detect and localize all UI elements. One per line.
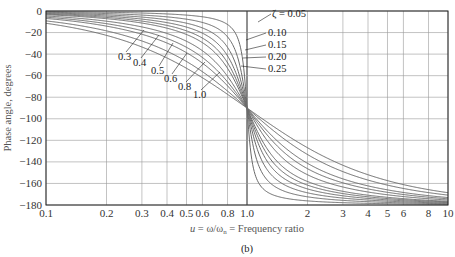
zeta-leader [243, 57, 266, 58]
x-tick-label: 2 [305, 207, 311, 219]
zeta-leader [245, 45, 266, 50]
zeta-label-0.5: 0.5 [151, 65, 164, 76]
zeta-leader [159, 43, 173, 66]
phase-angle-chart: 0−20−40−60−80−100−120−140−160−180 0.10.2… [0, 0, 455, 257]
y-tick-label: −140 [19, 155, 42, 167]
zeta-label-0.10: 0.10 [268, 27, 286, 38]
zeta-label-0.6: 0.6 [164, 73, 177, 84]
x-tick-label: 10 [443, 207, 455, 219]
y-axis-label: Phase angle, degrees [2, 64, 13, 151]
y-tick-label: −20 [25, 26, 43, 38]
y-tick-label: −100 [19, 112, 42, 124]
x-tick-label: 0.3 [135, 207, 149, 219]
x-tick-label: 0.1 [39, 207, 53, 219]
zeta-label-0.8: 0.8 [178, 81, 191, 92]
x-tick-labels: 0.10.20.30.40.50.60.81.023456810 [39, 207, 454, 219]
x-tick-label: 0.5 [180, 207, 194, 219]
zeta-label-0.05: ζ = 0.05 [272, 8, 306, 20]
zeta-label-1.0: 1.0 [193, 89, 206, 100]
x-tick-label: 1.0 [240, 207, 254, 219]
y-tick-label: −60 [25, 69, 43, 81]
x-tick-label: 0.4 [160, 207, 174, 219]
x-tick-label: 4 [365, 207, 371, 219]
figure-caption: (b) [241, 243, 254, 255]
zeta-leader [172, 53, 187, 74]
zeta-label-0.20: 0.20 [268, 51, 286, 62]
x-label-omega: = ω/ω [195, 223, 223, 234]
zeta-label-0.25: 0.25 [268, 63, 286, 74]
zeta-leader [246, 33, 266, 40]
y-tick-label: 0 [37, 5, 43, 17]
y-tick-label: −80 [25, 91, 43, 103]
zeta-label-0.15: 0.15 [268, 39, 286, 50]
x-tick-label: 0.6 [196, 207, 210, 219]
zeta-label-0.3: 0.3 [118, 51, 131, 62]
y-tick-label: −160 [19, 177, 42, 189]
y-tick-label: −120 [19, 134, 42, 146]
x-tick-label: 3 [340, 207, 346, 219]
y-tick-label: −40 [25, 48, 43, 60]
x-tick-label: 0.2 [100, 207, 114, 219]
x-tick-label: 5 [385, 207, 391, 219]
x-tick-label: 6 [401, 207, 407, 219]
x-tick-label: 8 [426, 207, 432, 219]
zeta-leader [241, 66, 266, 69]
x-axis-label: u = ω/ωn = Frequency ratio [190, 223, 304, 236]
y-tick-labels: 0−20−40−60−80−100−120−140−160−180 [19, 5, 42, 211]
x-label-tail: = Frequency ratio [227, 223, 304, 234]
zeta-leader [258, 14, 271, 22]
zeta-label-0.4: 0.4 [133, 57, 147, 68]
x-tick-label: 0.8 [221, 207, 235, 219]
